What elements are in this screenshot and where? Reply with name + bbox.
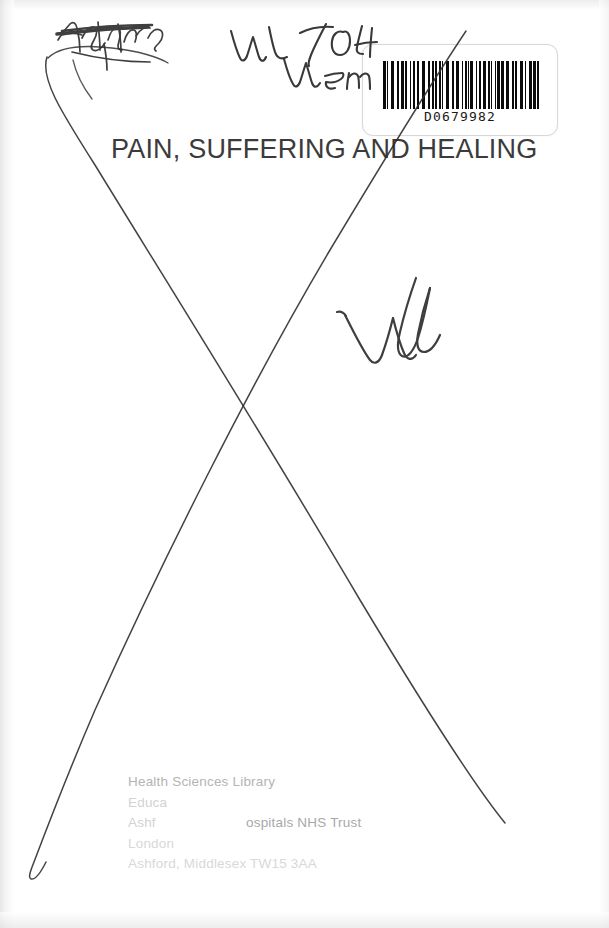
scan-edge-bottom [0,912,609,928]
stamp-line-5: Ashford, Middlesex TW15 3AA [128,854,428,875]
pen-sweep-top-left [48,46,168,63]
stamp-line-1: Health Sciences Library [128,772,428,793]
scan-edge-top [0,0,609,10]
scanned-page: PAIN, SUFFERING AND HEALING D0679982 [0,0,609,928]
handwritten-shelfmark-line2 [284,59,370,89]
scan-edge-right [599,0,609,928]
page-title: PAIN, SUFFERING AND HEALING [111,134,537,165]
barcode-number: D0679982 [363,109,557,124]
stamp-line-3-right: ospitals NHS Trust [246,813,361,834]
large-handwritten-mark [337,278,440,363]
stamp-line-3: Ashf ospitals NHS Trust [128,813,428,834]
stamp-line-4: London [128,834,428,855]
stamp-line-3-left: Ashf [128,813,246,834]
withdrawal-cross-stroke-a [46,57,505,823]
crossed-out-word [57,22,163,70]
barcode-bars-icon [383,61,541,109]
scan-edge-left [0,0,14,928]
library-barcode-label: D0679982 [362,44,558,136]
handwritten-shelfmark-line1 [231,24,377,66]
pen-sweep-tail [73,60,92,99]
stamp-line-2: Educa [128,793,428,814]
library-stamp: Health Sciences Library Educa Ashf ospit… [128,772,428,875]
